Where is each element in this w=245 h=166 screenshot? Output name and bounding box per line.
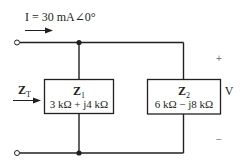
zt-label: ZT: [18, 83, 31, 99]
z1-value: 3 kΩ + j4 kΩ: [50, 98, 109, 110]
z2-value: 6 kΩ − j8 kΩ: [155, 98, 214, 110]
voltage-minus: −: [216, 134, 222, 145]
voltage-plus: +: [216, 53, 222, 64]
circuit-diagram: I = 30 mA∠0° Z1 3 kΩ + j4 kΩ Z2 6 kΩ − j…: [0, 0, 245, 166]
current-label: I = 30 mA∠0°: [25, 10, 96, 24]
bottom-terminal: [15, 151, 20, 156]
current-arrow-icon: [25, 28, 53, 34]
top-terminal: [15, 40, 20, 45]
voltage-label: V: [225, 84, 234, 98]
